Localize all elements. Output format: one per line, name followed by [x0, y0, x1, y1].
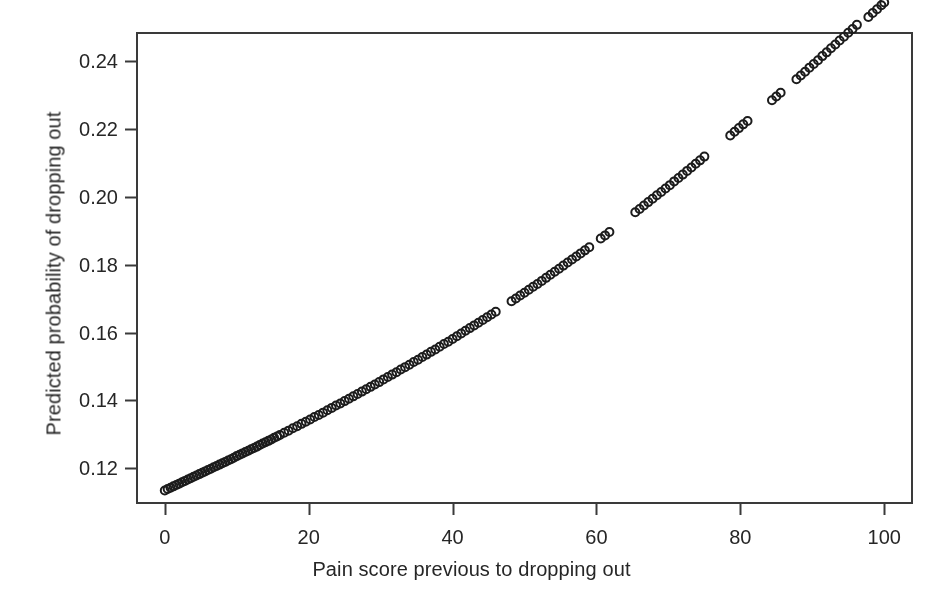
y-tick-label: 0.14 [79, 389, 118, 412]
y-tick-label: 0.12 [79, 457, 118, 480]
x-tick-label: 100 [868, 526, 901, 549]
x-tick-label: 0 [159, 526, 170, 549]
x-tick-label: 60 [585, 526, 607, 549]
scatter-plot-figure: 0.120.140.160.180.200.220.24 02040608010… [0, 0, 943, 608]
x-tick-label: 20 [298, 526, 320, 549]
y-tick-label: 0.22 [79, 117, 118, 140]
y-axis-title: Predicted probability of dropping out [43, 14, 66, 534]
y-tick-label: 0.16 [79, 321, 118, 344]
plot-frame [136, 32, 913, 504]
x-axis-title: Pain score previous to dropping out [0, 558, 943, 581]
x-tick-label: 80 [729, 526, 751, 549]
y-tick-label: 0.24 [79, 49, 118, 72]
y-tick-label: 0.18 [79, 253, 118, 276]
y-tick-label: 0.20 [79, 185, 118, 208]
x-tick-label: 40 [441, 526, 463, 549]
